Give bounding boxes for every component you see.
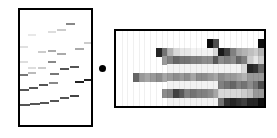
band <box>30 103 40 105</box>
band <box>20 61 28 63</box>
band <box>28 72 36 74</box>
band <box>70 66 79 68</box>
band <box>70 95 79 97</box>
band <box>38 51 46 53</box>
band <box>84 79 93 81</box>
band <box>57 29 66 31</box>
band <box>57 53 66 55</box>
separator-dot <box>99 65 106 72</box>
band <box>49 82 58 84</box>
band <box>20 104 30 106</box>
column-line <box>218 31 219 106</box>
column-line <box>207 31 208 106</box>
band <box>29 87 38 89</box>
column-line <box>184 31 185 106</box>
column-line <box>253 31 254 106</box>
column-line <box>162 31 163 106</box>
column-line <box>201 31 202 106</box>
band <box>50 100 59 102</box>
column-line <box>156 31 157 106</box>
band <box>20 74 28 76</box>
band <box>20 89 29 91</box>
column-line <box>139 31 140 106</box>
column-line <box>173 31 174 106</box>
column-line <box>167 31 168 106</box>
band <box>66 23 75 25</box>
column-line <box>247 31 248 106</box>
column-line <box>190 31 191 106</box>
band-trace-panel <box>18 8 93 127</box>
column-line <box>122 31 123 106</box>
band <box>50 73 59 75</box>
column-line <box>224 31 225 106</box>
band <box>48 50 56 52</box>
band <box>39 84 48 86</box>
heatmap-panel <box>114 29 266 108</box>
band <box>28 67 36 69</box>
column-line <box>213 31 214 106</box>
band <box>75 48 84 50</box>
band <box>40 102 49 104</box>
column-line <box>258 31 259 106</box>
band <box>48 61 56 63</box>
band <box>20 46 28 48</box>
column-line <box>144 31 145 106</box>
band <box>38 67 46 69</box>
band <box>84 42 92 44</box>
band <box>75 81 84 83</box>
band <box>28 34 36 36</box>
column-line <box>241 31 242 106</box>
column-line <box>133 31 134 106</box>
column-line <box>236 31 237 106</box>
column-line <box>150 31 151 106</box>
column-line <box>127 31 128 106</box>
column-line <box>196 31 197 106</box>
column-line <box>230 31 231 106</box>
band <box>60 97 69 99</box>
column-line <box>179 31 180 106</box>
band <box>60 68 69 70</box>
band <box>48 31 56 33</box>
